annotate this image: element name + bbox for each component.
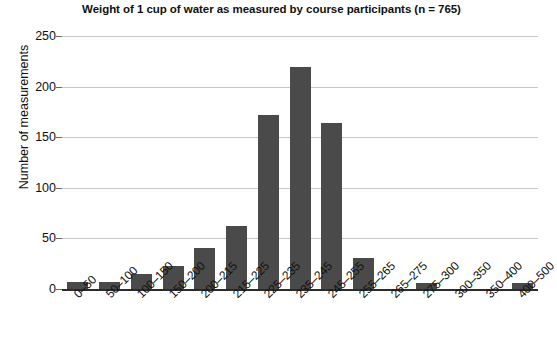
y-tick-label: 200 <box>8 81 56 94</box>
y-tick-label: 150 <box>8 131 56 144</box>
y-axis-tick-labels: 050100150200250 <box>0 0 56 358</box>
y-tick-mark <box>56 137 62 138</box>
bars-layer <box>62 36 538 289</box>
y-tick-label: 100 <box>8 182 56 195</box>
y-tick-label: 50 <box>8 232 56 245</box>
chart-title: Weight of 1 cup of water as measured by … <box>0 3 543 15</box>
y-tick-label: 250 <box>8 30 56 43</box>
y-tick-mark <box>56 188 62 189</box>
y-tick-mark <box>56 289 62 290</box>
y-tick-mark <box>56 36 62 37</box>
bar <box>290 67 311 289</box>
y-tick-label: 0 <box>8 283 56 296</box>
y-tick-mark <box>56 238 62 239</box>
y-tick-mark <box>56 87 62 88</box>
x-axis-tick-labels: 0–5050–100100–150150–200200–215215–22522… <box>62 291 538 358</box>
